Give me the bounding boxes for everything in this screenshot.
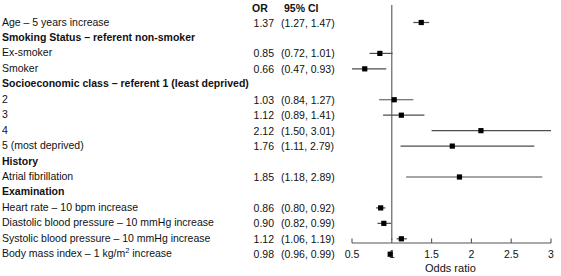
row-label-9: History <box>2 156 38 167</box>
row-label-2: Ex-smoker <box>2 47 52 58</box>
row-or-value-12: 0.86 <box>248 202 274 214</box>
row-label-15: Body mass index – 1 kg/m2 increase <box>2 248 172 259</box>
point-estimate-0 <box>419 20 424 25</box>
row-or-value-3: 0.66 <box>248 63 274 75</box>
row-label-6: 3 <box>2 109 8 120</box>
row-or-value-10: 1.85 <box>248 171 274 183</box>
row-estimate-0 <box>413 20 429 25</box>
x-axis-tick-label-5: 3 <box>537 248 561 260</box>
x-axis-tick-label-1: 1 <box>378 248 406 260</box>
point-estimate-6 <box>399 113 404 118</box>
row-estimate-13 <box>377 221 391 226</box>
row-label-7: 4 <box>2 125 8 136</box>
row-estimate-12 <box>376 205 386 210</box>
point-estimate-2 <box>377 51 382 56</box>
row-label-10: Atrial fibrillation <box>2 171 73 182</box>
row-or-value-15: 0.98 <box>248 248 274 260</box>
row-or-value-7: 2.12 <box>248 125 274 137</box>
row-ci-value-6: (0.89, 1.41) <box>281 109 335 121</box>
row-estimate-14 <box>397 236 407 241</box>
row-label-5: 2 <box>2 94 8 105</box>
point-estimate-8 <box>450 144 455 149</box>
row-estimate-5 <box>379 97 413 102</box>
column-header-ci: 95% CI <box>284 2 318 14</box>
row-ci-value-0: (1.27, 1.47) <box>281 17 335 29</box>
row-ci-value-8: (1.11, 2.79) <box>281 140 334 152</box>
row-label-14: Systolic blood pressure – 10 mmHg increa… <box>2 233 210 244</box>
row-estimate-10 <box>406 174 542 179</box>
x-axis-tick-label-3: 2 <box>457 248 485 260</box>
forest-plot: OR95% CIAge – 5 years increase1.37(1.27,… <box>0 0 561 276</box>
row-label-4: Socioeconomic class – referent 1 (least … <box>2 78 249 89</box>
x-axis-tick-label-4: 2.5 <box>497 248 525 260</box>
row-ci-value-7: (1.50, 3.01) <box>281 125 335 137</box>
row-ci-value-5: (0.84, 1.27) <box>281 94 335 106</box>
point-estimate-3 <box>362 66 367 71</box>
row-ci-value-12: (0.80, 0.92) <box>281 202 335 214</box>
row-label-13: Diastolic blood pressure – 10 mmHg incre… <box>2 217 214 228</box>
point-estimate-14 <box>399 236 404 241</box>
row-label-12: Heart rate – 10 bpm increase <box>2 202 138 213</box>
x-axis-tick-label-0: 0.5 <box>338 248 366 260</box>
row-label-8: 5 (most deprived) <box>2 140 84 151</box>
point-estimate-10 <box>457 174 462 179</box>
x-axis-tick-label-2: 1.5 <box>418 248 446 260</box>
point-estimate-12 <box>378 205 383 210</box>
row-ci-value-13: (0.82, 0.99) <box>281 217 335 229</box>
point-estimate-5 <box>392 97 397 102</box>
row-estimate-3 <box>352 66 386 71</box>
row-or-value-5: 1.03 <box>248 94 274 106</box>
row-or-value-2: 0.85 <box>248 47 274 59</box>
row-estimate-2 <box>370 51 393 56</box>
column-header-or: OR <box>252 2 268 14</box>
row-or-value-13: 0.90 <box>248 217 274 229</box>
point-estimate-13 <box>381 221 386 226</box>
x-axis-title: Odds ratio <box>425 262 476 274</box>
row-estimate-6 <box>383 113 424 118</box>
row-label-0: Age – 5 years increase <box>2 17 109 28</box>
row-label-3: Smoker <box>2 63 38 74</box>
row-or-value-14: 1.12 <box>248 233 274 245</box>
row-ci-value-3: (0.47, 0.93) <box>281 63 335 75</box>
row-ci-value-10: (1.18, 2.89) <box>281 171 335 183</box>
row-ci-value-15: (0.96, 0.99) <box>281 248 335 260</box>
row-or-value-6: 1.12 <box>248 109 274 121</box>
row-estimate-8 <box>401 144 535 149</box>
row-label-11: Examination <box>2 186 64 197</box>
row-label-1: Smoking Status – referent non-smoker <box>2 32 195 43</box>
row-or-value-8: 1.76 <box>248 140 274 152</box>
point-estimate-7 <box>478 128 483 133</box>
row-ci-value-2: (0.72, 1.01) <box>281 47 335 59</box>
row-estimate-7 <box>432 128 551 133</box>
row-or-value-0: 1.37 <box>248 17 274 29</box>
row-ci-value-14: (1.06, 1.19) <box>281 233 335 245</box>
